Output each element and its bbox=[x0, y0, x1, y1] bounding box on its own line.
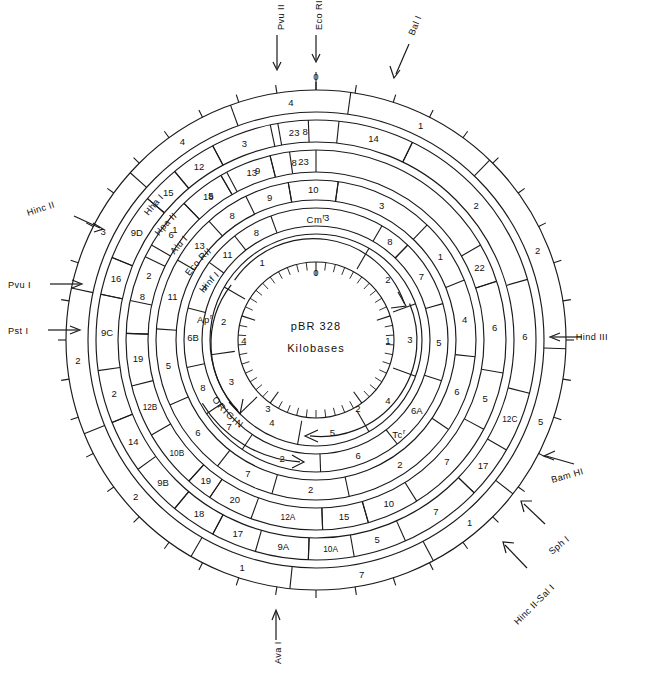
fragment-label: 17 bbox=[232, 528, 243, 539]
fragment-divider bbox=[395, 245, 408, 258]
ring3-outer-circle bbox=[126, 150, 506, 530]
pointer-pst1: Pst I bbox=[8, 326, 80, 336]
fragment-label: 17 bbox=[478, 460, 489, 471]
fragment-label: 8 bbox=[292, 157, 297, 168]
fragment-label: 18 bbox=[194, 508, 205, 519]
dial-minor-tick bbox=[350, 401, 354, 408]
fragment-label: 5 bbox=[538, 416, 543, 427]
fragment-divider bbox=[224, 287, 245, 299]
fragment-label: 6A bbox=[411, 405, 423, 416]
fragment-label: 1 bbox=[438, 251, 443, 262]
fragment-label: 12C bbox=[502, 414, 517, 424]
fragment-divider bbox=[544, 348, 566, 349]
fragment-label: 8 bbox=[254, 227, 259, 238]
fragment-label: 3 bbox=[379, 200, 384, 211]
dial-minor-tick bbox=[379, 370, 386, 373]
outer-tick bbox=[463, 542, 468, 548]
outer-tick bbox=[107, 487, 113, 492]
fragment-label: 2 bbox=[75, 355, 80, 366]
hinc2sal1-arrow-line bbox=[505, 545, 527, 568]
fragment-label: 7 bbox=[444, 456, 449, 467]
pointer-label-pvu1: Pvu I bbox=[8, 280, 31, 290]
fragment-divider bbox=[209, 262, 224, 273]
fragment-label: 7 bbox=[359, 569, 364, 580]
fragment-label: 6 bbox=[522, 331, 527, 342]
fragment-divider bbox=[112, 414, 132, 422]
dial-minor-tick bbox=[325, 409, 326, 417]
pointer-label-ecori: Eco RI bbox=[314, 0, 324, 30]
fragment-divider bbox=[84, 425, 104, 433]
dial-minor-tick bbox=[287, 267, 290, 274]
fragment-label: 7 bbox=[245, 468, 250, 479]
fragment-label: 1 bbox=[259, 257, 264, 268]
fragment-divider bbox=[71, 288, 93, 293]
fragment-divider bbox=[235, 236, 246, 250]
outer-tick bbox=[493, 517, 499, 523]
dial-minor-tick bbox=[364, 283, 369, 289]
fragment-divider bbox=[211, 351, 235, 354]
fragment-divider bbox=[191, 537, 202, 556]
fragment-label: 4 bbox=[462, 314, 467, 325]
fragment-divider bbox=[446, 280, 465, 287]
pointer-hind3: Hind III bbox=[550, 332, 608, 342]
fragment-divider bbox=[432, 418, 449, 429]
gene-label-cmr: Cmr bbox=[307, 213, 326, 225]
fragment-label: 12 bbox=[194, 161, 205, 172]
fragment-label: 12B bbox=[143, 402, 158, 412]
pointer-ava1: Ava I bbox=[272, 610, 283, 664]
pointer-hinc2: Hinc II bbox=[26, 199, 103, 232]
fragment-divider bbox=[138, 456, 156, 469]
fragment-label: 9A bbox=[277, 541, 289, 552]
fragment-divider bbox=[151, 424, 170, 435]
fragment-label: 4 bbox=[269, 417, 274, 428]
outer-tick bbox=[276, 85, 277, 93]
fragment-label: 5 bbox=[483, 393, 488, 404]
fragment-divider bbox=[156, 329, 176, 330]
outer-tick bbox=[71, 260, 79, 262]
fragment-divider bbox=[151, 245, 170, 256]
fragment-divider bbox=[423, 541, 433, 560]
fragment-divider bbox=[213, 146, 223, 165]
ring-enzyme-hha1: Hha I bbox=[142, 192, 165, 217]
ring4-outer-circle bbox=[156, 180, 476, 500]
pointer-label-ava1: Ava I bbox=[273, 641, 283, 664]
fragment-divider bbox=[272, 475, 278, 494]
dial-minor-tick bbox=[297, 264, 299, 272]
fragment-label: 1 bbox=[467, 517, 472, 528]
fragment-label: 20 bbox=[229, 494, 240, 505]
fragment-label: 19 bbox=[201, 475, 212, 486]
pointer-hinc2-sal1: Hinc II-Sal I bbox=[503, 542, 556, 627]
fragment-divider bbox=[426, 304, 443, 309]
dial-minor-tick bbox=[306, 263, 307, 271]
outer-tick bbox=[518, 188, 524, 193]
fragment-label: 6 bbox=[355, 450, 360, 461]
dial-minor-tick bbox=[245, 370, 252, 373]
fragment-label: 1 bbox=[418, 120, 423, 131]
dial-tick-2: 2 bbox=[355, 403, 360, 414]
fragment-divider bbox=[362, 501, 368, 522]
pointer-label-pst1: Pst I bbox=[8, 326, 28, 336]
pointer-bal1: Bal I bbox=[390, 14, 423, 78]
fragment-divider bbox=[455, 355, 475, 357]
dial-major-tick bbox=[242, 316, 255, 320]
fragment-divider bbox=[458, 478, 474, 493]
ring4-inner-circle bbox=[176, 200, 456, 480]
fragment-divider bbox=[126, 333, 148, 334]
fragment-label: 2 bbox=[473, 200, 478, 211]
fragment-divider bbox=[508, 388, 529, 393]
fragment-label: 1 bbox=[239, 562, 244, 573]
dial-minor-tick bbox=[239, 353, 247, 354]
fragment-divider bbox=[348, 92, 351, 114]
fragment-divider bbox=[308, 120, 309, 142]
dial-minor-tick bbox=[379, 307, 386, 310]
center-dial-ticks bbox=[238, 262, 394, 418]
fragment-divider bbox=[288, 182, 291, 202]
dial-minor-tick bbox=[357, 277, 362, 283]
pbr328-map-svg: Pvu II Eco RI 0 Bal I Hind III Bam HI bbox=[0, 0, 646, 680]
fragment-label: 2 bbox=[111, 388, 116, 399]
fragment-divider bbox=[335, 182, 338, 202]
dial-minor-tick bbox=[383, 362, 391, 364]
dial-minor-tick bbox=[263, 283, 268, 289]
pointer-label-sph1: Sph I bbox=[547, 534, 571, 557]
fragment-divider bbox=[487, 439, 506, 450]
